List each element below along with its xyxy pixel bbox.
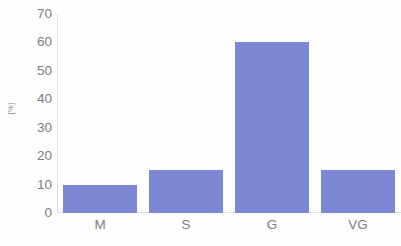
x-axis-tick-label: VG [348, 218, 368, 232]
y-axis-tick-label: 10 [0, 178, 52, 192]
y-axis-tick-label: 30 [0, 121, 52, 135]
x-axis-tick-label: M [94, 218, 105, 232]
y-axis-tick-label: 20 [0, 149, 52, 163]
bar-slot [315, 14, 401, 213]
bar-vg[interactable] [321, 170, 395, 213]
bar-g[interactable] [235, 42, 309, 213]
bar-chart-figure: [%] 010203040506070 MSGVG [0, 0, 401, 246]
bar-slot [57, 14, 143, 213]
bar-slot [229, 14, 315, 213]
y-axis-tick-label: 40 [0, 93, 52, 107]
x-axis-tick-label: S [181, 218, 190, 232]
x-axis-tick-labels: MSGVG [57, 218, 401, 242]
y-axis-tick-labels: 010203040506070 [0, 0, 52, 246]
plot-area [57, 14, 401, 213]
y-axis-tick-label: 0 [0, 206, 52, 220]
bar-m[interactable] [63, 185, 137, 213]
y-axis-tick-label: 50 [0, 64, 52, 78]
bar-s[interactable] [149, 170, 223, 213]
bar-slot [143, 14, 229, 213]
bars-layer [57, 14, 401, 213]
y-axis-tick-label: 60 [0, 36, 52, 50]
y-axis-tick-label: 70 [0, 7, 52, 21]
x-axis-tick-label: G [267, 218, 278, 232]
